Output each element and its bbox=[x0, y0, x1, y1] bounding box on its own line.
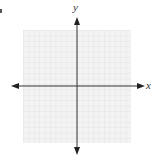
coordinate-plane bbox=[0, 0, 159, 160]
x-axis-label: x bbox=[146, 79, 151, 91]
x-axis-right-arrow-icon bbox=[137, 83, 145, 89]
x-axis-left-arrow-icon bbox=[11, 83, 19, 89]
y-axis-bottom-arrow-icon bbox=[74, 147, 80, 155]
y-axis-label: y bbox=[73, 1, 78, 13]
y-axis-top-arrow-icon bbox=[74, 17, 80, 25]
